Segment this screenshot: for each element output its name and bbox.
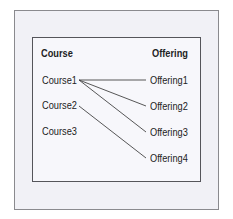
link-course1-offering3 [79,80,146,132]
link-lines [0,0,233,219]
link-course2-offering4 [79,106,146,158]
link-course1-offering2 [79,80,146,106]
